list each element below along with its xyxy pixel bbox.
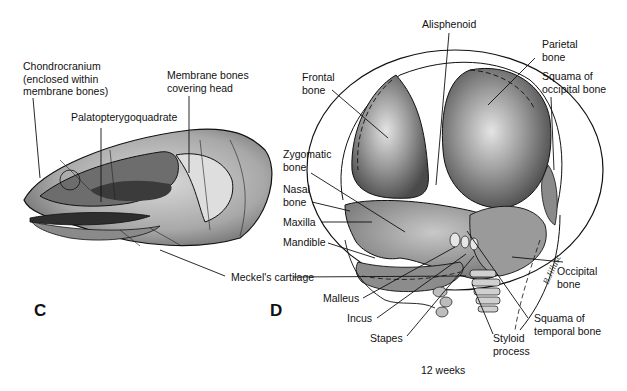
label-styloid-process: Styloid process: [493, 332, 530, 357]
label-stapes: Stapes: [370, 332, 403, 345]
label-palatopterygoquadrate: Palatopterygoquadrate: [71, 111, 177, 124]
label-malleus: Malleus: [323, 292, 359, 305]
label-squama-temporal: Squama of temporal bone: [534, 312, 601, 337]
label-occipital-bone: Occipital bone: [557, 265, 597, 290]
label-squama-occipital: Squama of occipital bone: [542, 70, 606, 95]
panel-letter-d: D: [270, 301, 282, 321]
panel-c-skull: [24, 129, 272, 246]
label-maxilla: Maxilla: [283, 216, 316, 229]
label-frontal-bone: Frontal bone: [302, 71, 335, 96]
label-alisphenoid: Alisphenoid: [422, 18, 476, 31]
label-mandible: Mandible: [283, 236, 326, 249]
label-chondrocranium: Chondrocranium (enclosed within membrane…: [23, 60, 108, 98]
label-membrane-bones: Membrane bones covering head: [167, 69, 249, 94]
label-zygomatic-bone: Zygomatic bone: [283, 148, 331, 173]
label-meckels-cartilage: Meckel's cartilage: [231, 271, 314, 284]
label-nasal-bone: Nasal bone: [283, 183, 310, 208]
panel-letter-c: C: [34, 301, 46, 321]
anatomy-illustration: B.Jillusc: [0, 0, 627, 391]
label-parietal-bone: Parietal bone: [542, 38, 578, 63]
figure-caption: 12 weeks: [421, 364, 465, 376]
label-incus: Incus: [347, 312, 372, 325]
